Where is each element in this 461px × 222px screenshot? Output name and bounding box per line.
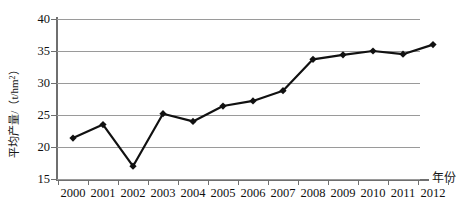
y-axis-tick-mark <box>51 115 57 116</box>
x-axis-tick-mark <box>268 180 269 185</box>
x-axis-tick-label: 2012 <box>413 187 453 200</box>
y-axis-tick-label: 40 <box>26 13 50 26</box>
y-axis-tick-label: 35 <box>26 45 50 58</box>
x-axis-tick-mark <box>58 180 59 185</box>
y-axis-tick-label: 20 <box>26 141 50 154</box>
y-axis-tick-mark <box>51 147 57 148</box>
y-axis-tick-label: 15 <box>26 173 50 186</box>
x-axis-tick-mark <box>208 180 209 185</box>
x-axis-tick-mark <box>418 180 419 185</box>
x-axis-title: 年份 <box>432 168 456 186</box>
x-axis-tick-mark <box>358 180 359 185</box>
x-axis-tick-mark <box>238 180 239 185</box>
x-axis-tick-mark <box>118 180 119 185</box>
y-axis-tick-mark <box>51 83 57 84</box>
x-axis-tick-mark <box>328 180 329 185</box>
data-point-marker <box>429 41 436 48</box>
gridline <box>57 51 420 52</box>
y-axis-title-tail: ） <box>5 64 21 75</box>
line-chart: 平均产量/（t/hm2） 152025303540 20002001200220… <box>0 0 461 222</box>
gridline <box>57 83 420 84</box>
gridline <box>57 147 420 148</box>
plot-area <box>57 19 420 179</box>
gridline <box>57 115 420 116</box>
y-axis-title-main: 平均产量/（t/hm <box>5 79 21 157</box>
x-axis-tick-mark <box>148 180 149 185</box>
gridline <box>57 19 420 20</box>
x-axis-tick-mark <box>88 180 89 185</box>
x-axis-tick-mark <box>178 180 179 185</box>
y-axis-tick-label: 30 <box>26 77 50 90</box>
x-axis-tick-mark <box>298 180 299 185</box>
y-axis-tick-label: 25 <box>26 109 50 122</box>
y-axis-tick-mark <box>51 19 57 20</box>
x-axis-tick-mark <box>448 180 449 185</box>
y-axis-tick-mark <box>51 51 57 52</box>
y-axis-tick-mark <box>51 179 57 180</box>
x-axis-tick-labels: 2000200120022003200420052006200720082009… <box>0 187 461 207</box>
x-axis-tick-mark <box>388 180 389 185</box>
